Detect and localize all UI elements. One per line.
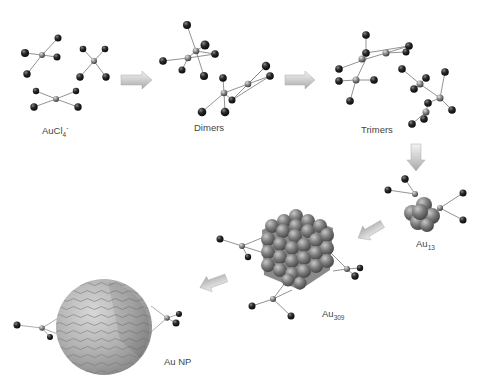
label-dimers: Dimers: [194, 122, 224, 133]
arrow-down-left-icon: [354, 217, 386, 245]
au13-cluster: [385, 175, 467, 232]
label-au309: Au309: [322, 308, 344, 321]
label-au-np: Au NP: [164, 356, 191, 367]
label-aucl4: AuCl4-: [42, 124, 68, 138]
arrow-right-icon: [285, 71, 315, 89]
arrow-down-icon: [407, 144, 425, 171]
growth-diagram: [0, 0, 486, 382]
label-trimers: Trimers: [361, 124, 393, 135]
trimer-molecules: [335, 31, 456, 128]
au309-cluster: [217, 209, 364, 320]
arrow-right-icon: [121, 71, 152, 89]
arrow-down-left-icon: [197, 270, 229, 295]
label-au13: Au13: [416, 238, 435, 251]
aucl4-molecules: [21, 35, 110, 111]
au-nanoparticle: [14, 279, 183, 375]
dimer-molecules: [159, 21, 274, 116]
